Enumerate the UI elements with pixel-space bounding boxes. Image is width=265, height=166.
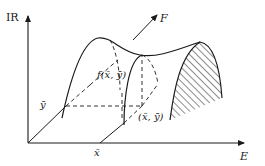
y-bar-label: ȳ [39,99,46,110]
point-label: (x̄, ȳ) [138,111,164,122]
function-value-label: f(x̄, ȳ) [96,69,126,80]
diagonal-axis [28,106,66,143]
horizontal-axis-label: E [239,150,248,163]
direction-arrow-icon [133,15,157,40]
diagram-canvas: IR E ȳ x̄ F f(x̄, ȳ) (x̄, ȳ) [0,0,265,166]
vertical-axis-label: IR [6,11,19,24]
x-bar-label: x̄ [94,147,100,158]
x-bar-baseline [100,123,124,143]
direction-label: F [159,12,168,25]
